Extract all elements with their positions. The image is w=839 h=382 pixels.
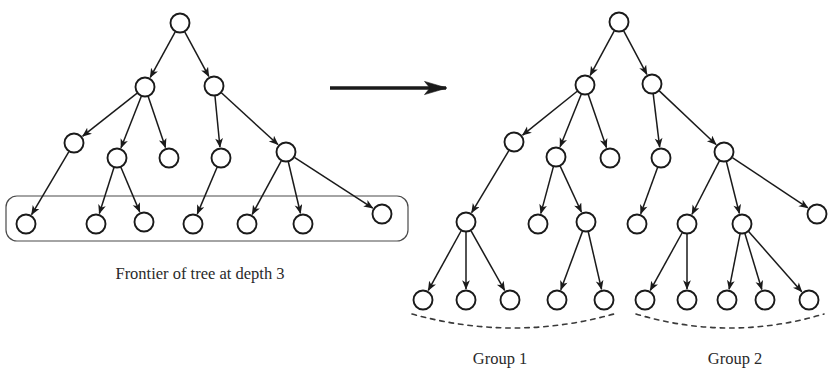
tree-edge [99,168,114,214]
tree-node[interactable] [628,215,647,234]
tree-edge [749,232,802,292]
tree-edge [726,162,739,214]
tree-edge [624,31,647,74]
tree-node[interactable] [160,149,179,168]
tree-node[interactable] [756,291,775,310]
tree-edge [653,94,659,147]
tree-node[interactable] [505,133,524,152]
tree-edge [650,233,682,291]
tree-edge [215,96,220,147]
tree-node[interactable] [678,291,697,310]
tree-edge [32,152,69,215]
tree-node[interactable] [171,14,190,33]
tree-edge [732,158,808,208]
tree-edge [221,93,278,145]
tree-node[interactable] [135,213,154,232]
tree-edge [294,157,372,208]
tree-node[interactable] [108,149,127,168]
tree-edge [588,232,601,290]
tree-node[interactable] [643,75,662,94]
tree-edge [471,231,505,291]
frontier-caption: Frontier of tree at depth 3 [115,264,284,283]
tree-edge [523,91,578,135]
tree-node[interactable] [501,291,520,310]
tree-edge [729,234,740,289]
tree-edge [745,234,762,290]
tree-node[interactable] [414,291,433,310]
frontier-highlight-box [6,196,408,241]
tree-edge [472,151,509,213]
tree-node[interactable] [457,213,476,232]
tree-node[interactable] [652,149,671,168]
tree-node[interactable] [577,213,596,232]
tree-edge [561,231,583,289]
tree-edge [197,167,217,214]
tree-node[interactable] [238,215,257,234]
tree-node[interactable] [294,215,313,234]
tree-node[interactable] [715,143,734,162]
tree-edge [288,162,300,214]
tree-node[interactable] [205,77,224,96]
tree-node[interactable] [733,215,752,234]
tree-edge [252,161,281,215]
tree-node[interactable] [136,78,155,97]
tree-edge [590,31,614,76]
tree-edge [121,167,140,212]
tree-edge [560,166,581,212]
tree-node[interactable] [457,291,476,310]
tree-edge [588,94,606,147]
tree-node[interactable] [547,148,566,167]
group-brace [412,314,614,328]
group-brace [636,314,824,328]
tree-edge [83,93,138,136]
tree-node[interactable] [184,215,203,234]
tree-node[interactable] [212,149,231,168]
expanded-tree [412,13,827,329]
tree-node[interactable] [65,134,84,153]
tree-nodes [414,13,827,310]
tree-node[interactable] [601,149,620,168]
tree-node[interactable] [548,291,567,310]
tree-edge [641,167,658,213]
tree-edge [659,91,716,145]
tree-edge [541,167,554,214]
tree-node[interactable] [678,215,697,234]
tree-edge [150,32,175,78]
tree-edge [148,96,165,147]
tree-node[interactable] [17,215,36,234]
tree-node[interactable] [373,205,392,224]
tree-node[interactable] [808,205,827,224]
tree-edge [185,32,209,77]
tree-node[interactable] [595,291,614,310]
group-1-label: Group 1 [473,349,528,368]
group-braces [412,314,824,328]
tree-node[interactable] [277,143,296,162]
tree-nodes [17,14,392,234]
tree-node[interactable] [636,291,655,310]
frontier-tree [6,14,408,242]
tree-node[interactable] [529,215,548,234]
group-2-label: Group 2 [708,349,763,368]
tree-edges [32,32,373,215]
tree-edge [428,231,461,291]
tree-node[interactable] [87,215,106,234]
tree-transformation-diagram: Frontier of tree at depth 3 Group 1 Grou… [0,0,839,382]
tree-edge [692,161,719,214]
tree-node[interactable] [800,291,819,310]
tree-node[interactable] [610,13,629,32]
tree-node[interactable] [576,76,595,95]
figure-container: Frontier of tree at depth 3 Group 1 Grou… [0,0,839,382]
tree-node[interactable] [718,291,737,310]
